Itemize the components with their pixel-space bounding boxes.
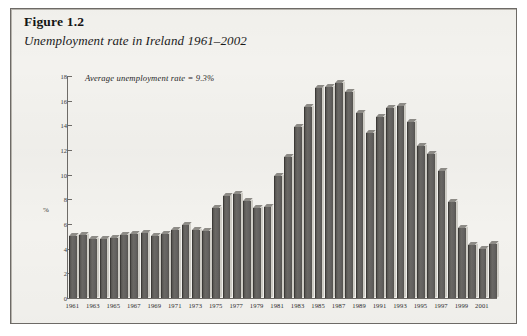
bar-1987 xyxy=(335,83,342,298)
bar-front-face xyxy=(110,238,118,298)
bar-2002 xyxy=(489,244,496,298)
bar-1976 xyxy=(223,196,230,298)
bar-1989 xyxy=(356,113,363,298)
bar-2001 xyxy=(479,249,486,298)
chart-plot-area: Average unemployment rate = 9.3% % 02468… xyxy=(45,71,500,307)
bar-1982 xyxy=(284,157,291,298)
bar-1972 xyxy=(182,225,189,298)
bar-front-face xyxy=(489,244,497,298)
bar-1981 xyxy=(274,176,281,298)
bar-front-face xyxy=(335,83,343,298)
bar-1977 xyxy=(233,194,240,298)
bar-1985 xyxy=(315,88,322,298)
bar-1975 xyxy=(212,208,219,298)
y-tick-mark xyxy=(68,125,72,126)
bar-front-face xyxy=(315,88,323,298)
bar-front-face xyxy=(89,239,97,298)
y-tick-6: 6 xyxy=(51,220,67,229)
bar-1988 xyxy=(345,92,352,298)
y-tick-2: 2 xyxy=(51,269,67,278)
bar-1963 xyxy=(89,239,96,298)
bar-front-face xyxy=(161,234,169,298)
bar-1971 xyxy=(171,230,178,298)
bar-front-face xyxy=(202,231,210,298)
bar-front-face xyxy=(376,117,384,298)
bar-1991 xyxy=(376,117,383,298)
y-tick-8: 8 xyxy=(51,195,67,204)
bar-1993 xyxy=(397,106,404,298)
bar-1995 xyxy=(417,146,424,298)
figure-caption: Unemployment rate in Ireland 1961–2002 xyxy=(24,33,247,49)
bar-front-face xyxy=(171,230,179,298)
bar-1998 xyxy=(448,202,455,298)
y-tick-mark xyxy=(68,101,72,102)
y-tick-14: 14 xyxy=(51,121,67,130)
bar-front-face xyxy=(243,201,251,298)
bar-1968 xyxy=(141,233,148,298)
bar-1979 xyxy=(253,208,260,298)
bar-front-face xyxy=(151,236,159,298)
y-tick-mark xyxy=(68,199,72,200)
y-tick-mark xyxy=(68,298,72,299)
bar-front-face xyxy=(479,249,487,298)
bar-1992 xyxy=(386,108,393,298)
y-tick-16: 16 xyxy=(51,97,67,106)
bar-front-face xyxy=(253,208,261,298)
bar-front-face xyxy=(294,127,302,298)
bar-1964 xyxy=(100,239,107,298)
bar-1990 xyxy=(366,133,373,298)
bar-front-face xyxy=(417,146,425,298)
y-axis-line xyxy=(67,76,68,298)
bar-2000 xyxy=(468,245,475,298)
y-tick-10: 10 xyxy=(51,171,67,180)
bar-front-face xyxy=(120,235,128,298)
bar-front-face xyxy=(386,108,394,298)
bar-front-face xyxy=(468,245,476,298)
bar-1965 xyxy=(110,238,117,298)
x-tick-2001: 2001 xyxy=(469,302,495,309)
bar-front-face xyxy=(100,239,108,298)
y-tick-mark xyxy=(68,224,72,225)
bar-1999 xyxy=(458,228,465,298)
bar-front-face xyxy=(264,207,272,298)
bar-1962 xyxy=(79,235,86,298)
bar-1974 xyxy=(202,231,209,298)
bar-front-face xyxy=(141,233,149,298)
x-axis-line xyxy=(67,298,497,299)
bar-1997 xyxy=(438,171,445,298)
bar-front-face xyxy=(304,107,312,298)
bar-front-face xyxy=(130,234,138,298)
bar-1973 xyxy=(192,230,199,298)
y-tick-mark xyxy=(68,150,72,151)
bar-front-face xyxy=(79,235,87,298)
bar-1986 xyxy=(325,87,332,298)
bar-front-face xyxy=(182,225,190,298)
figure-label: Figure 1.2 xyxy=(24,14,84,30)
bar-front-face xyxy=(325,87,333,298)
bar-front-face xyxy=(427,154,435,298)
bar-1996 xyxy=(427,154,434,298)
bar-front-face xyxy=(192,230,200,298)
bar-front-face xyxy=(284,157,292,298)
bar-front-face xyxy=(69,236,77,298)
y-tick-4: 4 xyxy=(51,245,67,254)
y-axis-label: % xyxy=(43,206,49,214)
bar-1961 xyxy=(69,236,76,298)
bar-1983 xyxy=(294,127,301,298)
bar-front-face xyxy=(233,194,241,298)
y-tick-12: 12 xyxy=(51,146,67,155)
bar-front-face xyxy=(366,133,374,298)
bar-front-face xyxy=(223,196,231,298)
bar-front-face xyxy=(212,208,220,298)
y-tick-mark xyxy=(68,175,72,176)
y-tick-mark xyxy=(68,76,72,77)
bar-1978 xyxy=(243,201,250,298)
bar-front-face xyxy=(345,92,353,298)
bar-front-face xyxy=(356,113,364,298)
y-tick-18: 18 xyxy=(51,72,67,81)
bar-1994 xyxy=(407,122,414,298)
bar-1967 xyxy=(130,234,137,298)
bar-front-face xyxy=(407,122,415,298)
bar-1969 xyxy=(151,236,158,298)
bar-front-face xyxy=(397,106,405,298)
